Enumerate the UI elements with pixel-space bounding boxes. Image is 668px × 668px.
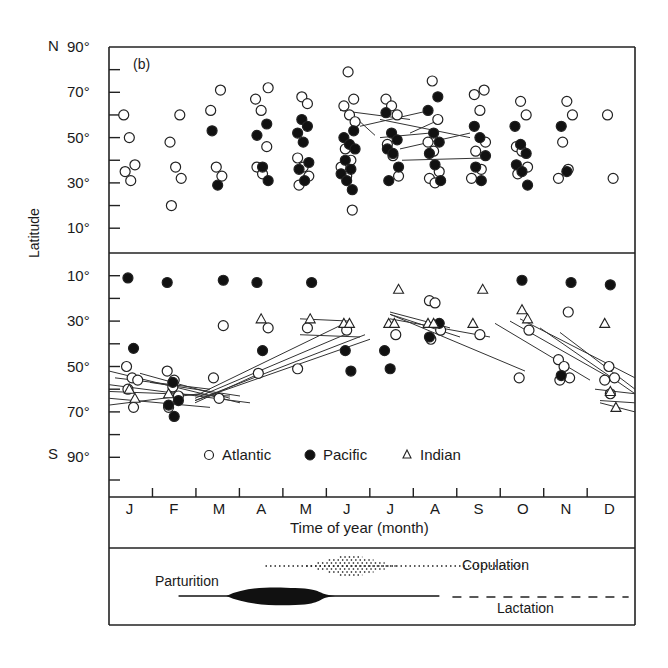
atlantic-point-marker — [514, 373, 524, 383]
pacific-point-marker — [423, 105, 433, 115]
lactation-label: Lactation — [497, 600, 554, 616]
atlantic-point-marker — [524, 325, 534, 335]
indian-point-marker — [611, 402, 621, 411]
atlantic-point-marker — [475, 105, 485, 115]
pacific-point-marker — [380, 346, 390, 356]
pacific-point-marker — [392, 135, 402, 145]
atlantic-point-marker — [347, 205, 357, 215]
atlantic-point-marker — [162, 366, 172, 376]
copulation-label: Copulation — [462, 557, 529, 573]
hemisphere-south-label: S — [48, 445, 58, 462]
x-tick-label-11: N — [560, 500, 571, 517]
atlantic-point-marker — [430, 298, 440, 308]
indian-point-marker — [468, 318, 478, 327]
atlantic-point-marker — [251, 94, 261, 104]
indian-point-marker — [523, 314, 533, 323]
pacific-point-marker — [164, 400, 174, 410]
atlantic-point-marker — [302, 323, 312, 333]
pacific-point-marker — [434, 137, 444, 147]
pacific-point-marker — [349, 126, 359, 136]
pacific-point-marker — [562, 167, 572, 177]
atlantic-point-marker — [475, 330, 485, 340]
pacific-point-marker — [258, 346, 268, 356]
pacific-point-marker — [521, 148, 531, 158]
atlantic-point-marker — [126, 176, 136, 186]
atlantic-point-marker — [392, 110, 402, 120]
y-tick-label-s10: 10° — [67, 267, 90, 284]
atlantic-point-marker — [293, 364, 303, 374]
atlantic-point-marker — [349, 94, 359, 104]
y-tick-label-s90: 90° — [67, 448, 90, 465]
pacific-point-marker — [384, 176, 394, 186]
legend-atlantic-label: Atlantic — [222, 446, 271, 463]
y-axis-label: Latitude — [26, 208, 42, 258]
pacific-point-marker — [293, 128, 303, 138]
x-tick-label-7: J — [387, 500, 395, 517]
atlantic-point-marker — [600, 375, 610, 385]
atlantic-point-marker — [133, 375, 143, 385]
pacific-point-marker — [436, 176, 446, 186]
pacific-point-marker — [388, 148, 398, 158]
pacific-point-marker — [381, 108, 391, 118]
atlantic-point-marker — [130, 160, 140, 170]
atlantic-point-marker — [263, 83, 273, 93]
y-tick-label-n10: 10° — [67, 219, 90, 236]
x-axis-label: Time of year (month) — [290, 519, 429, 536]
atlantic-point-marker — [217, 171, 227, 181]
pacific-point-marker — [556, 371, 566, 381]
atlantic-point-marker — [176, 173, 186, 183]
plot-frame — [109, 47, 635, 625]
chart-canvas — [0, 0, 668, 668]
pacific-point-marker — [556, 121, 566, 131]
indian-point-marker — [256, 314, 266, 323]
legend-indian-marker — [403, 450, 411, 458]
atlantic-point-marker — [563, 307, 573, 317]
atlantic-point-marker — [171, 162, 181, 172]
atlantic-point-marker — [391, 330, 401, 340]
atlantic-point-marker — [562, 96, 572, 106]
atlantic-point-marker — [215, 85, 225, 95]
pacific-point-marker — [605, 280, 615, 290]
atlantic-point-marker — [467, 173, 477, 183]
panel-label: (b) — [133, 56, 150, 72]
pacific-point-marker — [213, 180, 223, 190]
legend-atlantic-marker — [205, 451, 214, 460]
indian-point-marker — [305, 314, 315, 323]
atlantic-point-marker — [516, 96, 526, 106]
pacific-point-marker — [471, 162, 481, 172]
hemisphere-north-label: N — [48, 37, 59, 54]
pacific-point-marker — [300, 176, 310, 186]
atlantic-point-marker — [218, 321, 228, 331]
pacific-point-marker — [294, 164, 304, 174]
atlantic-point-marker — [129, 402, 139, 412]
pacific-point-marker — [516, 139, 526, 149]
atlantic-point-marker — [423, 137, 433, 147]
pacific-point-marker — [394, 162, 404, 172]
atlantic-point-marker — [553, 173, 563, 183]
atlantic-point-marker — [433, 114, 443, 124]
atlantic-point-marker — [559, 362, 569, 372]
atlantic-point-marker — [521, 110, 531, 120]
atlantic-point-marker — [175, 110, 185, 120]
pacific-point-marker — [476, 176, 486, 186]
pacific-point-marker — [517, 275, 527, 285]
y-axis-ticks — [109, 70, 120, 480]
x-tick-label-12: D — [604, 500, 615, 517]
atlantic-point-marker — [165, 137, 175, 147]
y-tick-label-s30: 30° — [67, 312, 90, 329]
atlantic-point-marker — [206, 105, 216, 115]
atlantic-point-marker — [120, 167, 130, 177]
atlantic-point-marker — [253, 368, 263, 378]
atlantic-point-marker — [302, 99, 312, 109]
pacific-point-marker — [523, 180, 533, 190]
pacific-point-marker — [429, 128, 439, 138]
pacific-point-marker — [433, 92, 443, 102]
x-tick-label-8: A — [430, 500, 440, 517]
pacific-point-marker — [123, 273, 133, 283]
y-tick-label-s50: 50° — [67, 358, 90, 375]
legend-pacific-label: Pacific — [323, 446, 367, 463]
atlantic-point-marker — [608, 173, 618, 183]
pacific-point-marker — [169, 411, 179, 421]
legend-indian-label: Indian — [420, 446, 461, 463]
pacific-point-marker — [129, 343, 139, 353]
